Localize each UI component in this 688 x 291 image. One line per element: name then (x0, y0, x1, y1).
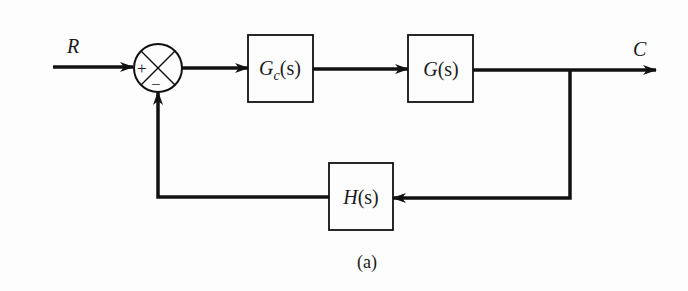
diagram-canvas: R + − Gc(s) G(s) C (0, 0, 688, 291)
feedback-return-line (393, 70, 570, 198)
figure-caption: (a) (357, 252, 377, 273)
plant-arg: (s) (438, 58, 459, 81)
summing-junction: + − (134, 44, 182, 94)
plant-block: G(s) (408, 35, 473, 102)
input-label-r: R (66, 35, 79, 57)
controller-block: Gc(s) (248, 35, 313, 102)
block-diagram: R + − Gc(s) G(s) C (0, 0, 688, 291)
feedback-name: H (342, 186, 359, 208)
output-label-c: C (633, 38, 647, 60)
controller-arg: (s) (280, 57, 301, 80)
svg-text:H(s): H(s) (342, 186, 379, 209)
svg-text:G(s): G(s) (423, 58, 459, 81)
feedback-signal-line (158, 92, 329, 197)
minus-sign: − (151, 75, 161, 94)
feedback-block: H(s) (329, 163, 393, 230)
plant-name: G (423, 58, 438, 80)
controller-name: G (259, 57, 274, 79)
feedback-arg: (s) (358, 186, 379, 209)
svg-text:Gc(s): Gc(s) (259, 57, 301, 83)
plus-sign: + (137, 59, 147, 78)
